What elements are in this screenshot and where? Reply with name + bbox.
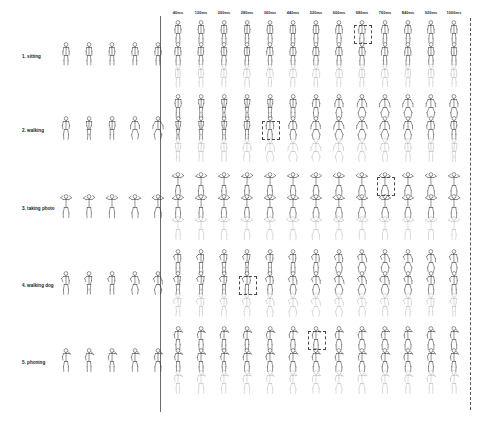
figure-root: 40ms120ms200ms280ms360ms440ms520ms600ms6… (0, 0, 486, 422)
time-label-600ms: 600ms (333, 10, 346, 15)
highlight-box-row-1 (354, 25, 372, 44)
time-label-440ms: 440ms (287, 10, 300, 15)
time-label-920ms: 920ms (425, 10, 438, 15)
time-axis: 40ms120ms200ms280ms360ms440ms520ms600ms6… (0, 0, 486, 22)
time-label-360ms: 360ms (264, 10, 277, 15)
highlight-box-row-2 (262, 121, 280, 140)
row-label-walking-dog: 4. walking dog (22, 283, 54, 288)
stick-figure-artwork (0, 0, 486, 422)
horizon-boundary-dashed (470, 18, 471, 410)
time-label-40ms: 40ms (173, 10, 183, 15)
time-label-120ms: 120ms (195, 10, 208, 15)
time-label-520ms: 520ms (310, 10, 323, 15)
row-label-walking: 2. walking (22, 128, 44, 133)
seed-prediction-separator (160, 16, 161, 412)
row-label-sitting: 1. sitting (22, 54, 41, 59)
time-label-280ms: 280ms (241, 10, 254, 15)
highlight-box-row-5 (308, 331, 326, 350)
time-label-1000ms: 1000ms (447, 10, 462, 15)
highlight-box-row-3 (377, 177, 395, 196)
time-label-680ms: 680ms (356, 10, 369, 15)
time-label-760ms: 760ms (379, 10, 392, 15)
time-label-200ms: 200ms (218, 10, 231, 15)
row-label-taking-photo: 3. taking photo (22, 206, 55, 211)
time-label-840ms: 840ms (402, 10, 415, 15)
highlight-box-row-4 (239, 276, 257, 295)
row-label-phoning: 5. phoning (22, 360, 45, 365)
